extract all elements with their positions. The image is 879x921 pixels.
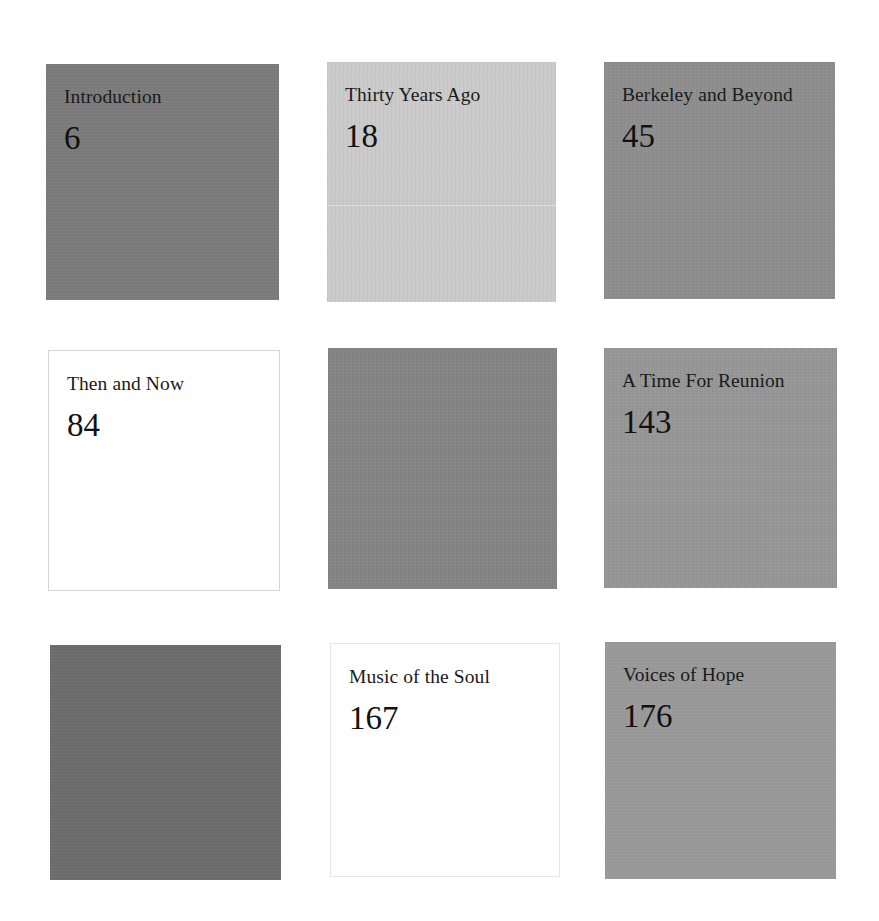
tile-blank-dark [50, 645, 281, 880]
tile-page-number: 84 [67, 409, 100, 442]
tile-berkeley-and-beyond[interactable]: Berkeley and Beyond 45 [604, 62, 835, 299]
tile-title: Music of the Soul [349, 666, 490, 688]
tile-introduction[interactable]: Introduction 6 [46, 64, 279, 300]
tile-title: Thirty Years Ago [345, 84, 480, 106]
tile-page-number: 176 [623, 700, 673, 733]
tile-music-of-the-soul[interactable]: Music of the Soul 167 [330, 643, 560, 877]
tile-then-and-now[interactable]: Then and Now 84 [48, 350, 280, 591]
tile-thirty-years-ago[interactable]: Thirty Years Ago 18 [327, 62, 556, 302]
tile-page-number: 45 [622, 120, 655, 153]
tile-page-number: 6 [64, 122, 81, 155]
tile-title: A Time For Reunion [622, 370, 785, 392]
tile-a-time-for-reunion[interactable]: A Time For Reunion 143 [604, 348, 837, 588]
tile-page-number: 18 [345, 120, 378, 153]
tile-page-number: 143 [622, 406, 672, 439]
tile-seam [327, 205, 556, 206]
tile-title: Introduction [64, 86, 162, 108]
tile-page-number: 167 [349, 702, 399, 735]
tile-voices-of-hope[interactable]: Voices of Hope 176 [605, 642, 836, 879]
tile-blank-gray [328, 348, 557, 589]
tile-title: Voices of Hope [623, 664, 744, 686]
tile-title: Then and Now [67, 373, 184, 395]
tile-title: Berkeley and Beyond [622, 84, 793, 106]
